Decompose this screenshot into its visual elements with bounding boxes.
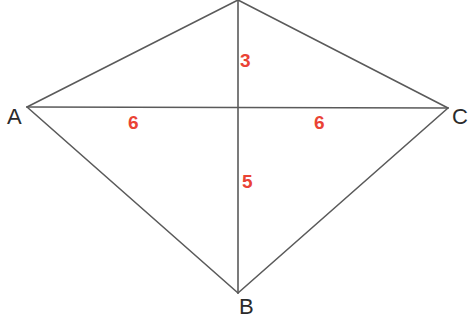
diagonals (27, 0, 448, 293)
edge-bottom-left (27, 107, 238, 293)
vertex-label-a: A (7, 106, 22, 128)
segment-length-label-left: 6 (128, 113, 139, 132)
edge-top-left (27, 0, 238, 107)
edge-top-right (238, 0, 448, 108)
segment-length-label-top: 3 (240, 51, 251, 70)
edge-bottom-right (238, 108, 448, 293)
segment-length-label-right: 6 (314, 113, 325, 132)
vertex-label-c: C (452, 106, 468, 128)
vertex-label-b: B (239, 296, 254, 318)
geometry-diagram-canvas: A B C 3 6 6 5 (0, 0, 473, 326)
diagram-svg (0, 0, 473, 326)
segment-length-label-bottom: 5 (242, 172, 253, 191)
